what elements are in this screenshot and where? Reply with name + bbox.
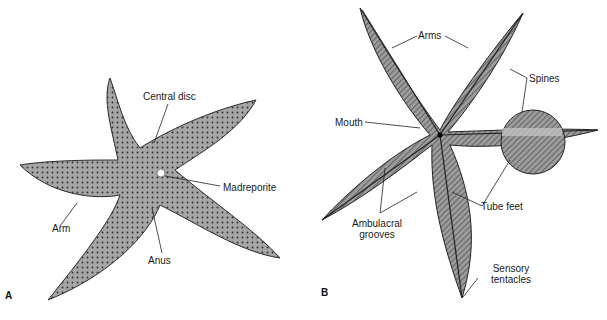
panel-letter-a: A xyxy=(5,290,12,301)
label-sensory-line2: tentacles xyxy=(491,274,531,285)
panel-letter-b: B xyxy=(321,287,328,298)
label-sensory-line1: Sensory xyxy=(491,263,531,274)
label-arm: Arm xyxy=(52,223,70,234)
label-mouth: Mouth xyxy=(335,117,363,128)
label-ambulacral-line2: grooves xyxy=(352,229,402,240)
label-anus: Anus xyxy=(148,255,171,266)
label-sensory-tentacles: Sensory tentacles xyxy=(491,263,531,285)
label-spines: Spines xyxy=(529,73,560,84)
label-ambulacral-line1: Ambulacral xyxy=(352,218,402,229)
starfish-oral xyxy=(322,8,598,298)
label-central-disc: Central disc xyxy=(143,91,196,102)
magnified-arm-section xyxy=(501,110,565,174)
label-ambulacral-grooves: Ambulacral grooves xyxy=(352,218,402,240)
madreporite-marker xyxy=(157,169,165,177)
label-arms: Arms xyxy=(418,30,441,41)
label-tube-feet: Tube feet xyxy=(481,201,523,212)
label-madreporite: Madreporite xyxy=(223,182,276,193)
